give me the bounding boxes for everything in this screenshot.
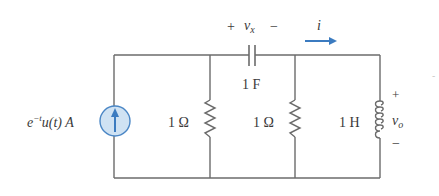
current-source [100, 106, 130, 136]
capacitor-voltage-plus: + [227, 19, 235, 34]
right-arrow-icon [305, 37, 337, 45]
resistor-1 [205, 100, 215, 137]
stray-mark: - [432, 70, 435, 81]
inductor-voltage-plus: + [392, 87, 399, 102]
capacitor-voltage-label: vx [244, 18, 255, 35]
inductor-voltage-minus: − [392, 136, 400, 151]
capacitor-label: 1 F [242, 77, 261, 92]
inductor [376, 101, 384, 138]
capacitor-voltage-minus: − [270, 19, 278, 34]
resistor-2-label: 1 Ω [253, 115, 274, 130]
resistor-1-label: 1 Ω [168, 115, 189, 130]
inductor-label: 1 H [339, 115, 360, 130]
inductor-voltage-label: vo [392, 113, 403, 130]
capacitor [249, 45, 255, 66]
circuit-diagram: e−tu(t) A 1 Ω 1 Ω 1 F + vx − i 1 H + vo … [0, 0, 439, 196]
resistor-2 [290, 100, 300, 137]
source-label: e−tu(t) A [27, 113, 74, 131]
current-label: i [317, 18, 321, 33]
